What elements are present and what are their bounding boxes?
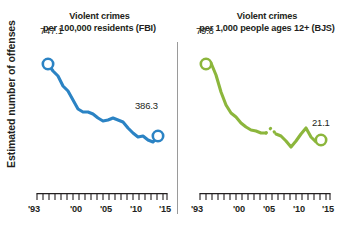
panel-fbi-plot: 747.1 386.3: [22, 38, 177, 198]
fbi-end-marker: [153, 131, 163, 141]
fbi-tick-label-93: '93: [28, 204, 40, 214]
bjs-data-line-break: [266, 128, 276, 134]
fbi-start-value-label: 747.1: [40, 25, 63, 36]
fbi-tick-label-00: '00: [70, 204, 82, 214]
fbi-tick-label-15: '15: [159, 204, 171, 214]
bjs-end-value-label: 21.1: [312, 117, 330, 128]
bjs-tick-label-93: '93: [191, 204, 203, 214]
fbi-tick-label-05: '05: [100, 204, 112, 214]
chart-figure: Estimated number of offenses Violent cri…: [0, 0, 353, 236]
panel-bjs-title-line1: Violent crimes: [237, 11, 298, 21]
bjs-data-line-part1: [206, 63, 266, 133]
panel-bjs-x-axis: '93 '00 '05 '10 '15: [199, 193, 331, 219]
fbi-line-svg: [22, 38, 177, 198]
fbi-end-value-label: 386.3: [135, 100, 158, 111]
bjs-axis-ticks: [199, 193, 331, 203]
panel-fbi-x-axis: '93 '00 '05 '10 '15: [36, 193, 168, 219]
panel-bjs-plot: 79.8 21.1: [181, 38, 353, 198]
bjs-end-marker: [316, 135, 326, 145]
bjs-start-marker: [201, 59, 211, 69]
fbi-axis-ticks: [36, 193, 168, 203]
bjs-tick-label-00: '00: [233, 204, 245, 214]
bjs-data-line-part2: [276, 128, 321, 147]
y-axis-label: Estimated number of offenses: [5, 9, 17, 179]
fbi-start-marker: [43, 59, 53, 69]
bjs-tick-label-10: '10: [293, 204, 305, 214]
panel-divider: [177, 42, 178, 214]
fbi-tick-label-10: '10: [130, 204, 142, 214]
bjs-tick-label-05: '05: [263, 204, 275, 214]
panel-fbi-title-line1: Violent crimes: [69, 11, 130, 21]
panel-bjs: Violent crimes per 1,000 people ages 12+…: [181, 0, 353, 236]
bjs-start-value-label: 79.8: [196, 25, 214, 36]
bjs-tick-label-15: '15: [322, 204, 334, 214]
panel-fbi: Violent crimes per 100,000 residents (FB…: [22, 0, 177, 236]
